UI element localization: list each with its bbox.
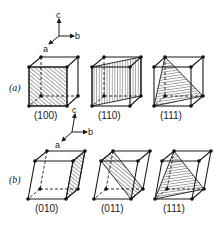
crystal-planes-diagram: c b a (a) (100) (110) — [0, 0, 220, 225]
miller-label: (010) — [35, 203, 58, 214]
row-b-label: (b) — [9, 174, 21, 186]
plane-100 — [29, 67, 67, 106]
c-axis-label: c — [56, 10, 61, 20]
cube-111-a: (111) — [152, 55, 205, 121]
plane-011 — [101, 151, 143, 199]
miller-label: (111) — [163, 203, 185, 214]
b-axis-label: b — [88, 127, 93, 137]
cube-110: (110) — [90, 55, 143, 121]
a-axis-arrow — [49, 36, 59, 44]
b-axis-label: b — [75, 31, 80, 41]
miller-label: (100) — [34, 110, 57, 121]
row-a-label: (a) — [9, 82, 21, 94]
miller-label: (110) — [98, 110, 121, 121]
cell-011: (011) — [92, 149, 152, 214]
miller-label: (111) — [160, 110, 182, 121]
plane-010 — [66, 151, 85, 199]
axes-a: c b a — [43, 10, 80, 54]
c-axis-arrow — [72, 114, 75, 132]
a-axis-arrow — [62, 132, 72, 141]
a-axis-label: a — [55, 140, 60, 150]
miller-label: (011) — [101, 203, 124, 214]
cell-010: (010) — [26, 149, 87, 214]
c-axis-label: c — [72, 105, 77, 115]
cell-111-b: (111) — [153, 149, 213, 214]
axes-b: c b a — [55, 105, 93, 150]
a-axis-label: a — [43, 44, 48, 54]
plane-111 — [154, 57, 203, 106]
